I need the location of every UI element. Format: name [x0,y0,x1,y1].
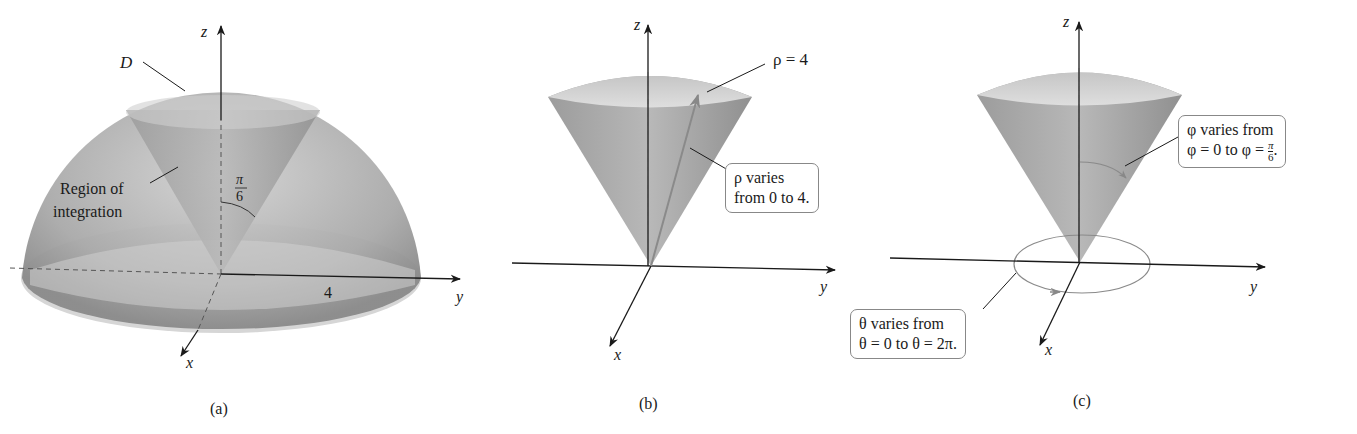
figure-canvas: z D Region of integration π 6 4 y x z ρ … [0,0,1357,434]
theta-callout: θ varies from θ = 0 to θ = 2π. [850,309,966,359]
angle-denominator: 6 [236,189,243,204]
rho-callout: ρ varies from 0 to 4. [725,163,819,213]
z-axis-label-b: z [633,16,641,33]
phi-callout: φ varies from φ = 0 to φ = π6. [1178,115,1286,168]
phi-callout-line2: φ = 0 to φ = π6. [1187,140,1277,163]
phi-frac-den: 6 [1268,152,1274,163]
x-axis-label-b: x [613,346,621,363]
y-axis-label-c: y [1248,278,1258,296]
panel-c: z y x [890,13,1265,358]
rho-callout-line2: from 0 to 4. [734,188,810,208]
angle-numerator: π [236,172,244,187]
rho-equals-4-label: ρ = 4 [773,50,809,69]
y-axis-c [890,258,1265,267]
phi-callout-line1: φ varies from [1187,120,1277,140]
y-axis-label-b: y [818,278,828,296]
z-axis-label-a: z [200,23,208,40]
region-note-line1: Region of [60,180,124,198]
region-D-label: D [119,53,133,72]
theta-callout-line1: θ varies from [859,314,957,334]
region-note-line2: integration [53,203,122,221]
x-axis-a [181,330,198,356]
caption-c: (c) [1073,392,1091,410]
z-axis-label-c: z [1062,13,1070,30]
rho-callout-line1: ρ varies [734,168,810,188]
x-axis-b [610,266,651,346]
x-axis-label-a: x [185,354,193,371]
caption-b: (b) [639,395,658,413]
radius-label: 4 [324,284,332,301]
theta-callout-line2: θ = 0 to θ = 2π. [859,334,957,354]
y-axis-label-a: y [454,288,464,306]
x-axis-label-c: x [1044,341,1052,358]
x-axis-c [1040,262,1080,345]
y-axis-b [512,263,835,270]
panel-a: z D Region of integration π 6 4 y x [10,23,464,371]
caption-a: (a) [210,400,228,418]
